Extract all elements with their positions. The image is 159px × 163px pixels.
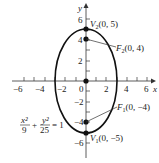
ellipse-diagram: −6 −4 −2 0 2 4 6 x 6 4 2 −2 −4 −6 y V2(0…: [0, 0, 159, 163]
svg-text:= 1: = 1: [52, 120, 64, 130]
x-tick-label: 2: [104, 84, 109, 94]
x-axis-arrow-icon: [151, 79, 156, 84]
x-tick-label: −6: [13, 84, 23, 94]
ellipse-equation: x² 9 + y² 25 = 1: [20, 115, 64, 135]
svg-text:x²: x²: [20, 115, 28, 125]
svg-text:y²: y²: [41, 115, 49, 125]
f1-label: F1(0, −4): [116, 102, 150, 113]
svg-text:25: 25: [40, 125, 50, 135]
y-tick-label: −4: [74, 117, 84, 127]
x-tick-label: −4: [35, 84, 45, 94]
y-axis-label: y: [77, 3, 82, 13]
v1-label: V1(0, −5): [90, 133, 123, 144]
vertex-v2-point: [83, 26, 88, 31]
f1-leader-line: [86, 107, 117, 122]
x-tick-label: 6: [144, 84, 149, 94]
y-tick-label: 2: [78, 56, 83, 66]
y-tick-label: 4: [78, 35, 83, 45]
y-tick-label: −2: [74, 97, 84, 107]
svg-text:+: +: [32, 120, 37, 130]
x-tick-label: 0: [79, 84, 84, 94]
y-axis-arrow-icon: [84, 3, 89, 8]
vertex-v1-point: [83, 130, 88, 135]
y-tick-label: 6: [78, 15, 83, 25]
y-tick-label: −6: [74, 138, 84, 148]
x-tick-label: 4: [124, 84, 129, 94]
v2-label: V2(0, 5): [90, 19, 118, 30]
f2-label: F2(0, 4): [115, 43, 144, 54]
x-axis-label: x: [152, 84, 157, 94]
svg-text:9: 9: [22, 125, 27, 135]
center-point: [83, 78, 88, 83]
f2-leader-line: [86, 39, 116, 47]
x-tick-label: −2: [57, 84, 67, 94]
